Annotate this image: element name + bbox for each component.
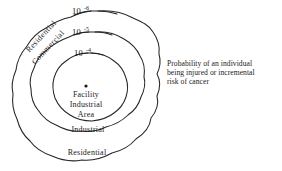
caption-line-2: being injured or incremental [167, 68, 255, 77]
caption-line-1: Probability of an individual [167, 59, 252, 68]
contour-label-middle-exponent: -5 [84, 26, 89, 32]
contour-label-inner: 10 -4 [74, 47, 91, 58]
contour-label-middle: 10 -5 [72, 26, 89, 37]
zone-label-residential: Residential [68, 148, 107, 157]
contour-label-outer-exponent: -6 [84, 5, 89, 11]
center-label-area: Area [78, 110, 95, 119]
contour-label-inner-base: 10 [74, 48, 83, 58]
facility-point-marker [84, 84, 87, 87]
contour-label-middle-base: 10 [72, 27, 81, 37]
center-label-facility: Facility [73, 90, 99, 99]
risk-contour-diagram: 10 -6 10 -5 10 -4 Residential Commercial… [0, 0, 282, 171]
contour-label-outer: 10 -6 [72, 5, 89, 16]
caption-block: Probability of an individual being injur… [167, 59, 255, 86]
contour-label-inner-exponent: -4 [86, 47, 91, 53]
contour-label-outer-base: 10 [72, 6, 81, 16]
caption-line-3: risk of cancer [167, 77, 209, 86]
zone-label-industrial: Industrial [71, 125, 105, 134]
center-label-industrial: Industrial [70, 100, 103, 109]
